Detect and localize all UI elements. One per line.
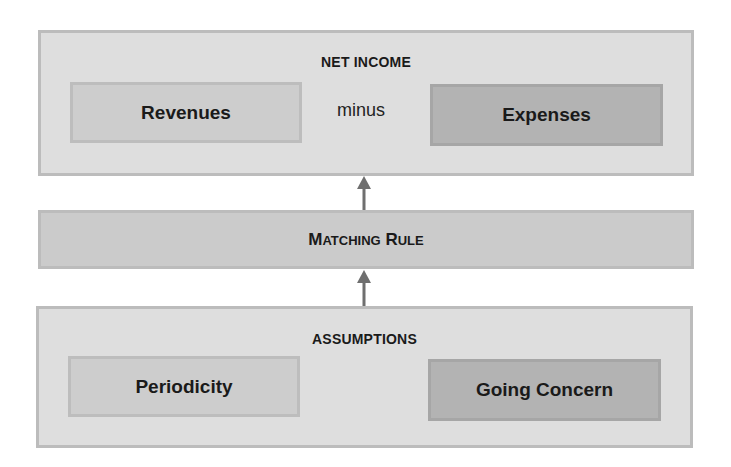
arrow-up-icon bbox=[356, 176, 372, 210]
revenues-box: Revenues bbox=[70, 82, 302, 143]
matching-rule-cap-r: R bbox=[385, 230, 397, 249]
matching-rule-cap-m: M bbox=[308, 230, 322, 249]
going-concern-label: Going Concern bbox=[476, 379, 613, 401]
minus-operator: minus bbox=[337, 100, 385, 121]
matching-rule-rest: ATCHING bbox=[322, 233, 380, 248]
expenses-label: Expenses bbox=[502, 104, 591, 126]
matching-rule-rest2: ULE bbox=[398, 233, 424, 248]
matching-rule-bar: MATCHING RULE bbox=[38, 210, 694, 269]
net-income-title: NET INCOME bbox=[41, 54, 691, 70]
periodicity-box: Periodicity bbox=[68, 356, 300, 417]
arrow-up-icon bbox=[356, 270, 372, 307]
expenses-box: Expenses bbox=[430, 84, 663, 146]
going-concern-box: Going Concern bbox=[428, 359, 661, 421]
matching-rule-label: MATCHING RULE bbox=[308, 230, 423, 250]
periodicity-label: Periodicity bbox=[135, 376, 232, 398]
assumptions-title: ASSUMPTIONS bbox=[39, 331, 690, 347]
revenues-label: Revenues bbox=[141, 102, 231, 124]
